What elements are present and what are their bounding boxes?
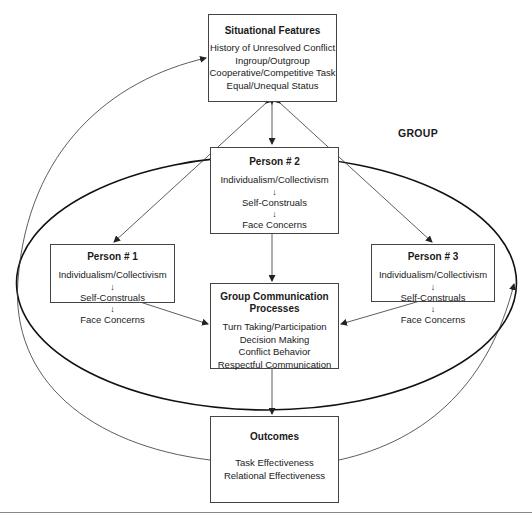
group-communication-title-line2: Processes: [211, 303, 338, 315]
situational-features-title: Situational Features: [209, 25, 336, 37]
arrow-down-icon: ↓: [51, 304, 174, 314]
person-2-box: Person # 2 Individualism/Collectivism ↓ …: [210, 147, 339, 234]
arrow-down-icon: ↓: [211, 187, 338, 197]
person-2-individualism: Individualism/Collectivism: [211, 174, 338, 187]
person-2-face-concerns: Face Concerns: [211, 219, 338, 232]
group-communication-title-line1: Group Communication: [211, 291, 338, 303]
group-communication-box: Group Communication Processes Turn Takin…: [210, 283, 339, 369]
arrow-down-icon: ↓: [51, 282, 174, 292]
person-1-individualism: Individualism/Collectivism: [51, 269, 174, 282]
group-communication-item: Respectful Communication: [211, 359, 338, 372]
person-1-self-construals: Self-Construals: [51, 292, 174, 305]
arrow-down-icon: ↓: [372, 282, 494, 292]
outcomes-item: Relational Effectiveness: [211, 470, 338, 483]
group-label: GROUP: [398, 127, 438, 139]
group-communication-item: Decision Making: [211, 334, 338, 347]
situational-features-box: Situational Features History of Unresolv…: [208, 14, 337, 102]
arrow-down-icon: ↓: [372, 304, 494, 314]
person-1-box: Person # 1 Individualism/Collectivism ↓ …: [50, 244, 175, 303]
outcomes-title: Outcomes: [211, 431, 338, 443]
person-3-title: Person # 3: [372, 251, 494, 263]
person-3-box: Person # 3 Individualism/Collectivism ↓ …: [371, 244, 495, 302]
group-communication-item: Conflict Behavior: [211, 346, 338, 359]
person-2-self-construals: Self-Construals: [211, 197, 338, 210]
outcomes-box: Outcomes Task Effectiveness Relational E…: [210, 416, 339, 503]
person-3-individualism: Individualism/Collectivism: [372, 269, 494, 282]
bottom-divider: [0, 512, 532, 513]
person-2-title: Person # 2: [211, 156, 338, 168]
situational-item: Equal/Unequal Status: [209, 80, 336, 93]
person-1-face-concerns: Face Concerns: [51, 314, 174, 327]
situational-item: History of Unresolved Conflict: [209, 42, 336, 55]
person-3-self-construals: Self-Construals: [372, 292, 494, 305]
outcomes-item: Task Effectiveness: [211, 457, 338, 470]
situational-item: Ingroup/Outgroup: [209, 55, 336, 68]
group-communication-item: Turn Taking/Participation: [211, 321, 338, 334]
person-3-face-concerns: Face Concerns: [372, 314, 494, 327]
situational-item: Cooperative/Competitive Task: [209, 67, 336, 80]
person-1-title: Person # 1: [51, 251, 174, 263]
arrow-down-icon: ↓: [211, 209, 338, 219]
